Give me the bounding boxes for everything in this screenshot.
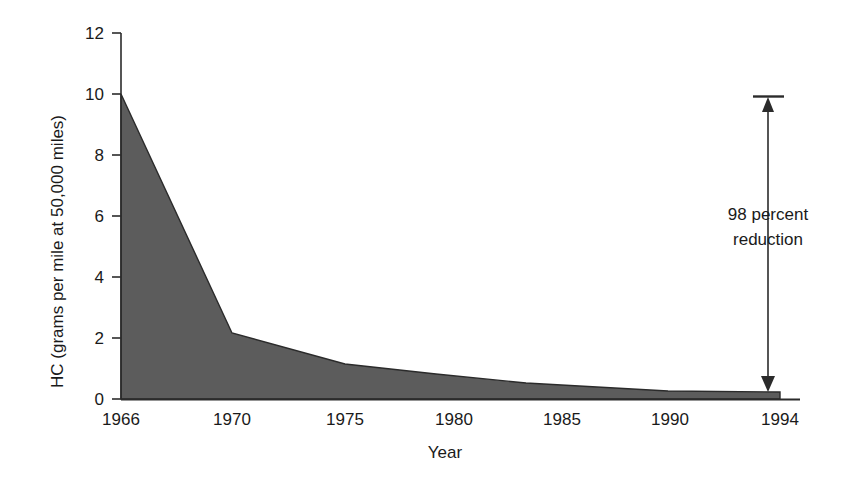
y-tick-label-0: 0 <box>72 391 104 408</box>
y-axis-title: HC (grams per mile at 50,000 miles) <box>48 115 68 388</box>
y-tick-label-10: 10 <box>72 86 104 103</box>
reduction-annotation-line1: 98 percent <box>728 203 808 227</box>
x-tick-label-1980: 1980 <box>435 411 473 428</box>
y-tick-label-6: 6 <box>72 208 104 225</box>
x-tick-label-1966: 1966 <box>102 411 140 428</box>
x-tick-label-1985: 1985 <box>543 411 581 428</box>
area-series-hc <box>121 94 780 399</box>
x-tick-label-1990: 1990 <box>651 411 689 428</box>
reduction-annotation-line2: reduction <box>733 228 803 252</box>
x-axis-title: Year <box>428 443 462 463</box>
x-tick-label-1970: 1970 <box>213 411 251 428</box>
y-tick-label-2: 2 <box>72 330 104 347</box>
chart-figure: HC (grams per mile at 50,000 miles) 12 1… <box>0 0 856 483</box>
y-tick-label-8: 8 <box>72 147 104 164</box>
y-axis-ticks <box>112 33 121 399</box>
x-tick-label-1994: 1994 <box>761 411 799 428</box>
x-tick-label-1975: 1975 <box>326 411 364 428</box>
y-tick-label-4: 4 <box>72 269 104 286</box>
y-tick-label-12: 12 <box>72 25 104 42</box>
